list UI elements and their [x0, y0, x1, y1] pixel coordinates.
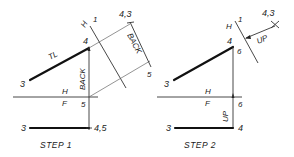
label-3-front: 3 [21, 123, 26, 133]
label-fold-f: F [205, 99, 211, 108]
top-view-line-3-4 [174, 47, 233, 80]
label-4-top: 4 [227, 36, 232, 46]
arrow-head-icon [245, 35, 251, 39]
label-6-front: 6 [238, 100, 243, 109]
label-up-vertical: UP [221, 110, 230, 122]
label-3-top: 3 [20, 79, 25, 89]
label-aux-fold-h: H [79, 19, 90, 29]
caption-step-2: STEP 2 [184, 140, 216, 150]
projector-4-aux [89, 24, 130, 48]
label-fold-h: H [205, 87, 211, 96]
label-fold-h: H [62, 87, 68, 96]
label-aux-fold-1: 1 [238, 15, 242, 24]
label-45-front: 4,5 [94, 123, 108, 133]
fold-line-h-1 [235, 21, 258, 63]
label-aux-fold-h: H [226, 22, 232, 31]
label-4-top: 4 [83, 36, 88, 46]
label-up-aux: UP [255, 33, 269, 46]
cross-mark-icon [127, 22, 134, 23]
descriptive-geometry-figure: 3 4 TL H F 5 3 4,5 H 1 4,3 5 BACK BACK S… [0, 0, 294, 157]
label-true-length: TL [47, 49, 59, 61]
label-aux-fold-1: 1 [93, 15, 97, 24]
label-fold-f: F [62, 99, 68, 108]
label-6-top: 6 [237, 47, 242, 56]
step-2-panel: 3 4 6 H F 6 3 4 H 1 4,3 UP UP STEP 2 [157, 8, 279, 150]
label-aux-43: 4,3 [262, 8, 275, 18]
label-3-top: 3 [164, 79, 169, 89]
step-1-panel: 3 4 TL H F 5 3 4,5 H 1 4,3 5 BACK BACK S… [13, 9, 152, 150]
label-4-front: 4 [238, 123, 243, 133]
caption-step-1: STEP 1 [40, 140, 72, 150]
label-aux-5: 5 [147, 70, 152, 79]
label-5-front: 5 [81, 100, 86, 109]
label-back-aux: BACK [125, 32, 143, 56]
label-3-front: 3 [166, 123, 171, 133]
label-back-vertical: BACK [78, 68, 87, 90]
projector-5-aux [89, 61, 150, 97]
label-aux-43: 4,3 [119, 9, 132, 19]
